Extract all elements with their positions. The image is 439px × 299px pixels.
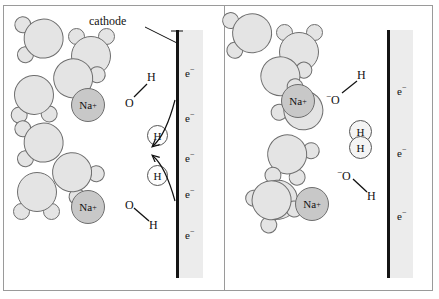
electron-label: e− (185, 110, 194, 124)
electron-label: e− (185, 186, 194, 200)
electron-transfer-arrows (3, 5, 224, 291)
electrochemistry-diagram: cathode Na+ Na+ (0, 0, 439, 299)
electron-label: e− (185, 227, 194, 241)
hydrogen-atom-bottom: H (349, 136, 372, 159)
electron-label: e− (397, 145, 406, 159)
electron-label: e− (185, 65, 194, 79)
electron-label: e− (397, 208, 406, 222)
right-panel: Na+ Na+ −O H −O H H H e− e− (225, 5, 433, 291)
arrow-electron-1 (153, 100, 175, 146)
left-panel: cathode Na+ Na+ (3, 5, 224, 291)
electron-label: e− (397, 83, 406, 97)
arrow-electron-2 (153, 156, 175, 201)
electron-label: e− (185, 150, 194, 164)
